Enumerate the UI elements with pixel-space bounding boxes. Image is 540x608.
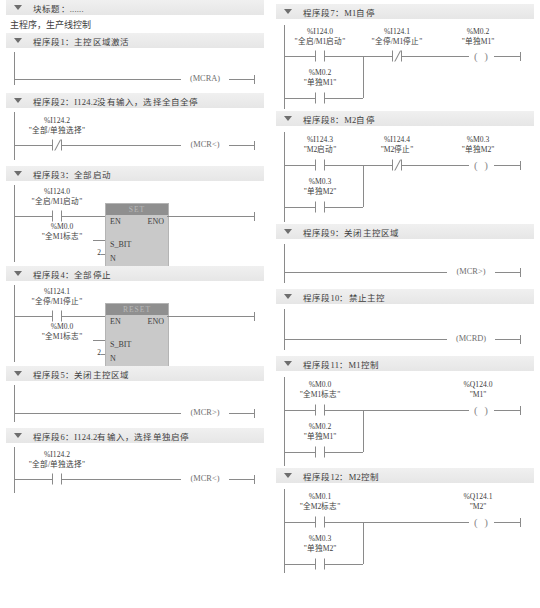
coil-mcra[interactable]: (MCRA) <box>190 74 220 84</box>
coil-q1241[interactable]: ( ) <box>474 517 490 528</box>
rung-wire-right <box>495 272 520 273</box>
rung-wire-right <box>495 339 520 340</box>
network-title-11: 程序段11：M1控制 <box>303 358 379 370</box>
n-wire <box>101 354 105 355</box>
coil-label: %Q124.0 "M1" <box>464 380 493 399</box>
coil-label: %Q124.1 "M2" <box>464 492 493 511</box>
branch-wire-right <box>325 207 363 208</box>
contact-no-i1240[interactable] <box>315 51 325 62</box>
block-title-bar[interactable]: 块标题：...... <box>6 0 264 15</box>
contact-label-2: %I124.4 "M2停止" <box>381 135 414 154</box>
coil-mcr-close[interactable]: (MCR>) <box>457 267 486 277</box>
network-header-8[interactable]: 程序段8：M2自停 <box>276 111 534 126</box>
coil-mcr-close[interactable]: (MCR>) <box>191 408 220 418</box>
block-header-label: SET <box>106 204 168 215</box>
collapse-triangle-icon[interactable] <box>284 229 292 234</box>
left-column: 块标题：...... 主程序，生产线控制 程序段1：主控区域激活 (MCRA) … <box>0 0 270 608</box>
network-title-5: 程序段5：关闭主控区域 <box>33 368 129 380</box>
collapse-triangle-icon[interactable] <box>14 5 22 10</box>
network-header-1[interactable]: 程序段1：主控区域激活 <box>6 33 264 48</box>
collapse-triangle-icon[interactable] <box>14 271 22 276</box>
contact-label-1: %I124.2 "全部/单独选择" <box>29 116 85 135</box>
coil-q1240[interactable]: ( ) <box>474 405 490 416</box>
block-n-label: N <box>110 254 116 263</box>
collapse-triangle-icon[interactable] <box>14 433 22 438</box>
eno-out-wire <box>167 216 254 217</box>
power-rail <box>14 52 15 85</box>
network-header-3[interactable]: 程序段3：全部启动 <box>6 166 264 181</box>
collapse-triangle-icon[interactable] <box>14 98 22 103</box>
network-title-4: 程序段4：全部停止 <box>33 268 111 280</box>
contact-no-m02-branch[interactable] <box>315 93 325 104</box>
contact-no-i1242[interactable] <box>52 474 62 485</box>
branch-label-1: %M0.3 "单独M2" <box>304 177 337 196</box>
network-header-6[interactable]: 程序段6：I124.2有输入，选择单独启停 <box>6 428 264 443</box>
rung-wire-to-coil <box>325 410 469 411</box>
collapse-triangle-icon[interactable] <box>14 171 22 176</box>
contact-no-i1240[interactable] <box>52 211 62 222</box>
network-title-9: 程序段9：关闭主控区域 <box>303 226 399 238</box>
network-header-2[interactable]: 程序段2：I124.2没有输入，选择全自全停 <box>6 93 264 108</box>
block-sbit-label: S_BIT <box>110 340 131 349</box>
contact-nc-i1244[interactable] <box>392 160 402 171</box>
collapse-triangle-icon[interactable] <box>284 116 292 121</box>
rung-wire-to-coil <box>402 56 469 57</box>
contact-no-m00[interactable] <box>315 405 325 416</box>
rung-2: %I124.2 "全部/单独选择" (MCR<) <box>0 108 270 166</box>
set-function-block[interactable]: SET EN ENO S_BIT N <box>105 203 169 267</box>
collapse-triangle-icon[interactable] <box>284 473 292 478</box>
network-header-7[interactable]: 程序段7：M1自停 <box>276 4 534 19</box>
rung-12: %M0.1 "全M2标志" %Q124.1 "M2" ( ) %M0.3 "单独… <box>270 483 540 575</box>
power-rail <box>14 285 15 362</box>
coil-m02[interactable]: ( ) <box>474 51 490 62</box>
block-subtitle: 主程序，生产线控制 <box>0 15 270 33</box>
contact-label-2: %I124.1 "全停/M1停止" <box>372 27 423 46</box>
network-title-1: 程序段1：主控区域激活 <box>33 35 129 47</box>
rung-11: %M0.0 "全M1标志" %Q124.0 "M1" ( ) %M0.2 "单独… <box>270 371 540 468</box>
rung-wire <box>14 316 52 317</box>
network-header-5[interactable]: 程序段5：关闭主控区域 <box>6 366 264 381</box>
contact-label-1: %I124.1 "全停/M1停止" <box>32 287 83 306</box>
rung-wire-right <box>494 410 520 411</box>
sbit-wire <box>93 340 105 341</box>
power-rail <box>14 112 15 160</box>
network-header-4[interactable]: 程序段4：全部停止 <box>6 266 264 281</box>
collapse-triangle-icon[interactable] <box>14 371 22 376</box>
network-header-9[interactable]: 程序段9：关闭主控区域 <box>276 224 534 239</box>
network-title-12: 程序段12：M2控制 <box>303 470 379 482</box>
branch-label-1: %M0.3 "单独M2" <box>304 534 337 553</box>
power-rail <box>14 385 15 422</box>
collapse-triangle-icon[interactable] <box>284 294 292 299</box>
network-header-12[interactable]: 程序段12：M2控制 <box>276 468 534 483</box>
branch-wire-left <box>284 564 315 565</box>
power-rail <box>14 447 15 493</box>
contact-no-m03-branch[interactable] <box>315 202 325 213</box>
contact-no-m01[interactable] <box>315 517 325 528</box>
contact-no-i1243[interactable] <box>315 160 325 171</box>
eno-out-wire <box>167 316 254 317</box>
coil-mcr-open[interactable]: (MCR<) <box>191 140 220 150</box>
coil-mcr-open[interactable]: (MCR<) <box>191 474 220 484</box>
rung-wire-right <box>229 413 254 414</box>
rung-wire-right <box>229 145 254 146</box>
contact-no-m03-branch[interactable] <box>315 559 325 570</box>
collapse-triangle-icon[interactable] <box>14 38 22 43</box>
ladder-diagram-page: 块标题：...... 主程序，生产线控制 程序段1：主控区域激活 (MCRA) … <box>0 0 540 608</box>
network-title-3: 程序段3：全部启动 <box>33 168 111 180</box>
branch-wire-left <box>284 98 315 99</box>
contact-no-m02-branch[interactable] <box>315 447 325 458</box>
reset-function-block[interactable]: RESET EN ENO S_BIT N <box>105 303 169 367</box>
contact-nc-i1241[interactable] <box>392 51 402 62</box>
network-header-10[interactable]: 程序段10：禁止主控 <box>276 289 534 304</box>
branch-wire-right <box>325 98 363 99</box>
rung-wire-right <box>494 165 520 166</box>
network-header-11[interactable]: 程序段11：M1控制 <box>276 356 534 371</box>
coil-mcrd[interactable]: (MCRD) <box>456 334 486 344</box>
contact-label-1: %I124.0 "全启/M1启动" <box>295 27 346 46</box>
collapse-triangle-icon[interactable] <box>284 361 292 366</box>
power-rail <box>284 309 285 350</box>
contact-no-i1241[interactable] <box>52 311 62 322</box>
collapse-triangle-icon[interactable] <box>284 9 292 14</box>
coil-m03[interactable]: ( ) <box>474 160 490 171</box>
contact-nc-i1242[interactable] <box>52 140 62 151</box>
